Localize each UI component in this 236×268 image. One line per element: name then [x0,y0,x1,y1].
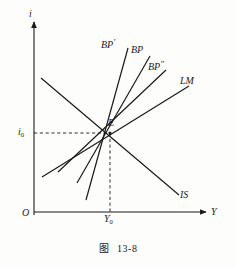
y-axis-label: i [29,9,32,19]
equilibrium-point-marker [108,131,111,134]
bp-prime-text: BP [101,39,113,50]
caption-prefix: 图 [99,243,110,254]
curve-is [41,78,179,195]
curve-label-lm: LM [180,76,194,86]
curve-lm [42,86,189,177]
y0-tick-sub: 0 [110,218,113,225]
bp-prime-mark: ′ [113,37,115,47]
curve-bp-prime [86,48,128,200]
figure-caption: 图13-8 [0,240,236,255]
origin-label: O [22,208,29,218]
curve-label-is: IS [180,190,188,200]
curve-label-bp-double-prime: BP″ [148,60,164,72]
curve-label-bp-prime: BP′ [101,38,115,50]
i0-tick-label: i0 [18,127,24,139]
is-lm-bp-diagram [0,0,236,268]
equilibrium-point-label: E [108,118,114,128]
i0-tick-sub: 0 [21,131,24,138]
figure-container: i Y O i0 Y0 E BP′ BP BP″ LM IS 图13-8 [0,0,236,268]
y0-tick-label: Y0 [104,214,113,226]
x-axis-label: Y [211,207,217,217]
bp-double-prime-mark: ″ [160,59,164,69]
curve-label-bp: BP [131,45,143,55]
caption-number: 13-8 [117,243,137,254]
bp-double-prime-text: BP [148,61,160,72]
